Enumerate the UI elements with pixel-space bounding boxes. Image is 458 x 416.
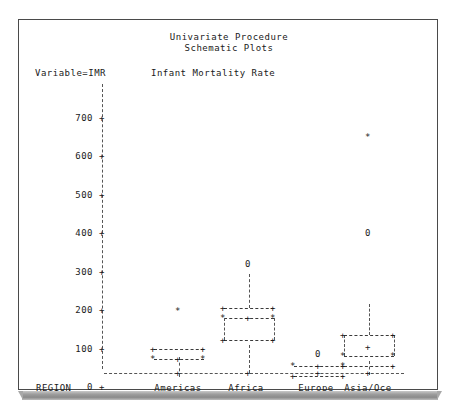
screenshot-root: Univariate Procedure Schematic Plots Var… — [0, 0, 458, 416]
box-bottom-africa — [224, 340, 274, 341]
y-tick-mark-100: + — [99, 344, 105, 354]
box-corner-br-asia: + — [390, 362, 396, 371]
box-corner-br-africa: + — [270, 336, 276, 345]
y-tick-label-700: 700 — [59, 113, 93, 123]
y-tick-mark-500: + — [99, 190, 105, 200]
whisker-high-asia — [369, 304, 370, 335]
median-left-europe: * — [290, 362, 296, 371]
plot-area: 700 + 600 + 500 + 400 + 300 + 200 + 100 … — [19, 20, 439, 391]
outlier-asia-2: * — [365, 133, 371, 142]
box-top-americas — [154, 349, 204, 350]
median-left-americas: * — [150, 355, 156, 364]
box-corner-bl-europe: + — [290, 372, 296, 381]
x-tick-mark-asia: + — [365, 368, 371, 378]
box-corner-bl-africa: + — [220, 336, 226, 345]
mean-marker-asia: + — [365, 343, 371, 352]
y-tick-mark-700: + — [99, 113, 105, 123]
y-tick-mark-300: + — [99, 267, 105, 277]
outlier-asia-1: 0 — [365, 229, 371, 238]
box-corner-tl-americas: + — [150, 345, 156, 354]
box-corner-tl-africa: + — [220, 304, 226, 313]
whisker-high-africa — [249, 274, 250, 308]
box-bottom-asia — [344, 366, 394, 367]
box-corner-tr-americas: + — [200, 345, 206, 354]
box-top-africa — [224, 308, 274, 309]
box-corner-tl-asia: + — [340, 331, 346, 340]
y-tick-mark-600: + — [99, 151, 105, 161]
sas-output-paper: Univariate Procedure Schematic Plots Var… — [18, 19, 438, 390]
outlier-americas-1: * — [175, 307, 181, 316]
x-tick-mark-africa: + — [245, 368, 251, 378]
window-bottom-bevel — [22, 391, 438, 400]
y-tick-mark-400: + — [99, 228, 105, 238]
mean-marker-africa: + — [245, 314, 251, 323]
outlier-europe-1: 0 — [315, 350, 321, 359]
y-tick-mark-200: + — [99, 305, 105, 315]
median-right-asia: * — [390, 352, 396, 361]
box-corner-tr-africa: + — [270, 304, 276, 313]
y-tick-label-300: 300 — [59, 267, 93, 277]
outlier-africa-1: 0 — [245, 260, 251, 269]
y-tick-label-100: 100 — [59, 344, 93, 354]
x-axis-line — [104, 373, 404, 374]
y-axis-line — [102, 84, 103, 369]
y-tick-label-400: 400 — [59, 228, 93, 238]
y-tick-label-500: 500 — [59, 190, 93, 200]
box-corner-bl-asia: + — [340, 362, 346, 371]
y-tick-label-200: 200 — [59, 305, 93, 315]
box-corner-br-europe: + — [340, 372, 346, 381]
y-tick-label-600: 600 — [59, 151, 93, 161]
x-tick-mark-europe: + — [315, 368, 321, 378]
box-median-asia — [344, 356, 394, 357]
median-left-asia: * — [340, 352, 346, 361]
median-right-africa: * — [270, 314, 276, 323]
box-top-asia — [344, 335, 394, 336]
mean-marker-americas: + — [175, 355, 181, 364]
median-right-americas: * — [200, 355, 206, 364]
box-corner-tr-asia: + — [390, 331, 396, 340]
median-left-africa: * — [220, 314, 226, 323]
x-tick-mark-americas: + — [175, 368, 181, 378]
